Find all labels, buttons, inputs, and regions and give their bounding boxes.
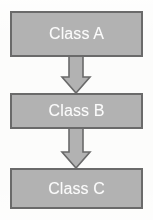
node-class-b-label: Class B [49,103,105,119]
diagram-canvas: Class A Class B Class C [0,0,153,220]
node-class-c[interactable]: Class C [10,168,143,209]
down-arrow-icon [60,127,92,170]
down-arrow-glyph [60,127,92,170]
node-class-b[interactable]: Class B [10,93,143,129]
down-arrow-icon [60,55,92,95]
node-class-a[interactable]: Class A [10,11,143,57]
node-class-a-label: Class A [49,26,104,42]
down-arrow-glyph [60,55,92,95]
node-class-c-label: Class C [48,181,105,197]
